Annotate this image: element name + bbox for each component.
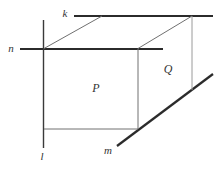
box-diagram-svg: knlmPQ [0, 0, 221, 172]
label-plane-P: P [91, 81, 100, 95]
edge-top-left-diagonal [44, 16, 102, 49]
label-line-k: k [63, 7, 69, 19]
label-plane-Q: Q [164, 62, 173, 76]
label-line-l: l [40, 150, 43, 162]
edge-top-right-diagonal [138, 16, 192, 49]
geometry-figure: knlmPQ [0, 0, 221, 172]
label-line-m: m [104, 144, 112, 156]
line-m [117, 74, 213, 146]
label-line-n: n [8, 42, 14, 54]
